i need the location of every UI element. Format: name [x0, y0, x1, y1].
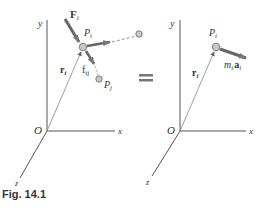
y-axis-label: y — [169, 18, 175, 29]
particle-pj-label: Pj — [103, 79, 112, 92]
y-axis-label: y — [37, 18, 43, 29]
position-vector-label: ri — [192, 67, 198, 80]
z-axis-label: z — [145, 178, 150, 187]
particle-system-diagram: y x z O ri Fi fij Pj Pi — [0, 0, 265, 208]
z-axis — [20, 131, 47, 178]
dashed-connector — [112, 36, 136, 42]
figure-caption: Fig. 14.1 — [2, 188, 46, 200]
z-axis-label: z — [14, 179, 19, 188]
external-force-label: Fi — [70, 8, 79, 22]
x-axis-label: x — [117, 126, 122, 136]
particle-pi — [79, 43, 87, 51]
particle-pi — [212, 43, 220, 51]
origin-label: O — [34, 124, 42, 136]
external-force-arrow — [65, 19, 79, 42]
x-axis-label: x — [248, 126, 253, 136]
internal-force-arrow-right — [87, 42, 110, 46]
particle-other — [136, 31, 142, 37]
particle-pj — [96, 76, 102, 82]
z-axis — [152, 131, 180, 176]
fij-dashed — [95, 66, 98, 75]
internal-force-label: fij — [82, 64, 89, 77]
right-panel: y x z O ri miai Pi — [145, 18, 253, 187]
particle-pi-label: Pi — [83, 27, 92, 40]
effective-force-arrow — [220, 49, 246, 58]
right-axes: y x z O — [145, 18, 253, 187]
particle-pi-label: Pi — [208, 27, 217, 40]
origin-label: O — [167, 124, 175, 136]
effective-force-label: miai — [224, 59, 241, 72]
left-panel: y x z O ri Fi fij Pj Pi — [14, 8, 142, 188]
position-vector-ri — [180, 52, 214, 131]
position-vector-label: ri — [60, 64, 66, 77]
internal-force-fij-arrow — [86, 51, 94, 64]
equals-sign — [139, 74, 153, 82]
